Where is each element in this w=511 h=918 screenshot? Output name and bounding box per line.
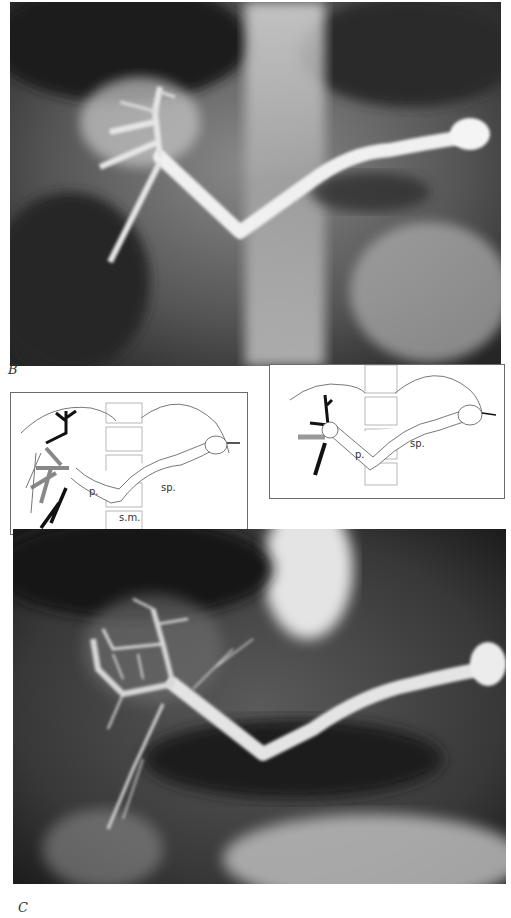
label-superior-mesenteric: s.m. (119, 512, 140, 523)
radiograph-c-image (13, 529, 506, 884)
diagram-right-drawing: p. sp. (270, 365, 504, 498)
label-splenic: sp. (161, 482, 176, 493)
diagram-left-drawing: p. sp. s.m. (11, 393, 247, 534)
panel-label-c: C (18, 900, 28, 915)
panel-label-b: B (8, 362, 18, 377)
radiograph-b-image (10, 2, 501, 366)
radiograph-b (10, 2, 501, 366)
radiograph-c (13, 529, 506, 884)
label-portal: p. (89, 486, 99, 497)
label-splenic: sp. (410, 438, 425, 449)
diagram-left: p. sp. s.m. (10, 392, 248, 535)
diagram-right: p. sp. (269, 364, 505, 499)
label-portal: p. (355, 449, 365, 460)
